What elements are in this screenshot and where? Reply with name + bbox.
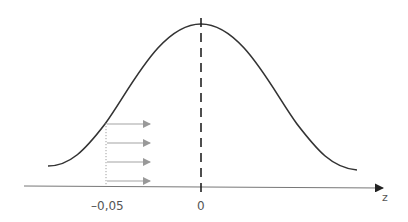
tick-label-0: 0 <box>197 200 205 212</box>
tick-label-minus-0-05: –0,05 <box>91 200 124 212</box>
z-axis <box>24 186 383 188</box>
axis-label-z: z <box>382 192 388 203</box>
diagram-svg <box>0 0 408 222</box>
bell-curve <box>48 24 357 170</box>
diagram-canvas: –0,05 0 z <box>0 0 408 222</box>
shift-arrows <box>107 124 150 181</box>
